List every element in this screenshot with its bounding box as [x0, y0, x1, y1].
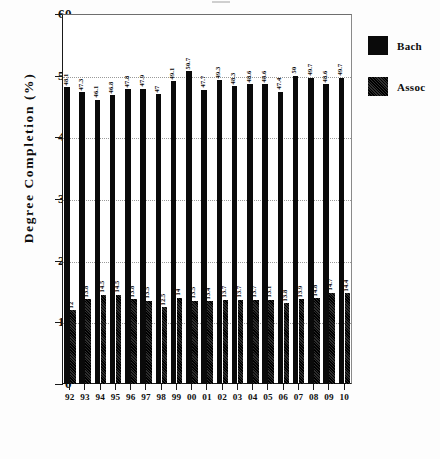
- x-tick-mark: [216, 384, 229, 390]
- x-tick-mark: [170, 384, 183, 390]
- x-tick-mark: [109, 384, 122, 390]
- x-tick-mark: [231, 384, 244, 390]
- x-tick-mark: [94, 384, 107, 390]
- x-tick-mark: [261, 384, 274, 390]
- x-tick-label: 93: [78, 392, 91, 402]
- x-tick-mark: [307, 384, 320, 390]
- x-tick-label: 96: [124, 392, 137, 402]
- x-tick-label: 99: [170, 392, 183, 402]
- x-tick-mark: [338, 384, 351, 390]
- x-tick-label: 02: [216, 392, 229, 402]
- chart-figure: Degree Completion (%) 0102030405060 48.1…: [0, 0, 440, 459]
- x-tick-mark: [124, 384, 137, 390]
- x-tick-mark: [246, 384, 259, 390]
- x-tick-label: 05: [261, 392, 274, 402]
- x-tick-label: 97: [139, 392, 152, 402]
- x-axis-ticks: [62, 384, 352, 390]
- x-tick-label: 07: [292, 392, 305, 402]
- x-axis-labels: 92939495969798990001020304050607080910: [62, 392, 352, 402]
- x-tick-mark: [292, 384, 305, 390]
- x-tick-label: 98: [155, 392, 168, 402]
- x-tick-label: 08: [307, 392, 320, 402]
- gridline: [63, 200, 351, 201]
- x-tick-label: 03: [231, 392, 244, 402]
- x-tick-label: 06: [277, 392, 290, 402]
- legend-label-bach: Bach: [397, 40, 422, 52]
- legend-item-bach: Bach: [368, 36, 438, 55]
- gridline: [63, 138, 351, 139]
- plot-area: [62, 14, 352, 384]
- x-tick-mark: [139, 384, 152, 390]
- x-tick-mark: [63, 384, 76, 390]
- gridline: [63, 77, 351, 78]
- legend-swatch-bach: [368, 36, 388, 55]
- gridline: [63, 262, 351, 263]
- x-tick-label: 95: [109, 392, 122, 402]
- x-tick-mark: [322, 384, 335, 390]
- x-tick-label: 04: [246, 392, 259, 402]
- x-tick-mark: [78, 384, 91, 390]
- legend-label-assoc: Assoc: [397, 81, 425, 93]
- x-tick-mark: [185, 384, 198, 390]
- x-tick-mark: [200, 384, 213, 390]
- x-tick-label: 92: [63, 392, 76, 402]
- x-tick-label: 00: [185, 392, 198, 402]
- x-tick-label: 01: [200, 392, 213, 402]
- gridline: [63, 323, 351, 324]
- x-tick-mark: [277, 384, 290, 390]
- scan-artifact: [212, 1, 230, 3]
- legend: Bach Assoc: [368, 36, 438, 118]
- x-tick-label: 09: [322, 392, 335, 402]
- x-tick-label: 94: [94, 392, 107, 402]
- x-tick-label: 10: [338, 392, 351, 402]
- legend-item-assoc: Assoc: [368, 77, 438, 96]
- legend-swatch-assoc: [368, 77, 388, 96]
- x-tick-mark: [155, 384, 168, 390]
